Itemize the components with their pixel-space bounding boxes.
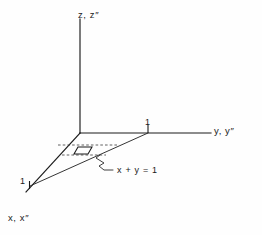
constraint-leader-line: [96, 155, 113, 170]
coordinate-axes-drawing: [0, 0, 262, 235]
figure-canvas: z, z″ y, y″ x, x″ 1 1 x + y = 1: [0, 0, 262, 235]
constraint-equation-label: x + y = 1: [117, 165, 158, 175]
area-element-parallelogram: [74, 147, 92, 154]
y-unit-tick-label: 1: [145, 117, 150, 127]
y-axis-label: y, y″: [214, 125, 234, 136]
x-unit-tick-label: 1: [20, 176, 25, 186]
x-axis-line: [26, 133, 80, 192]
x-axis-label: x, x″: [8, 212, 29, 223]
constraint-boundary-line: [30, 133, 148, 186]
z-axis-label: z, z″: [78, 9, 99, 20]
